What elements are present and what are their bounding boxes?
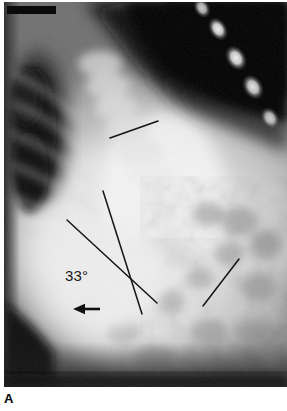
cobb-angle-label: 33° <box>65 268 88 283</box>
figure-panel-label: A <box>4 392 13 405</box>
film-grain <box>4 2 287 387</box>
radiograph-image: 33° <box>4 2 287 387</box>
top-left-black-bar <box>7 6 56 14</box>
figure-panel: 33° A <box>0 0 287 411</box>
radiograph-canvas <box>4 2 287 387</box>
